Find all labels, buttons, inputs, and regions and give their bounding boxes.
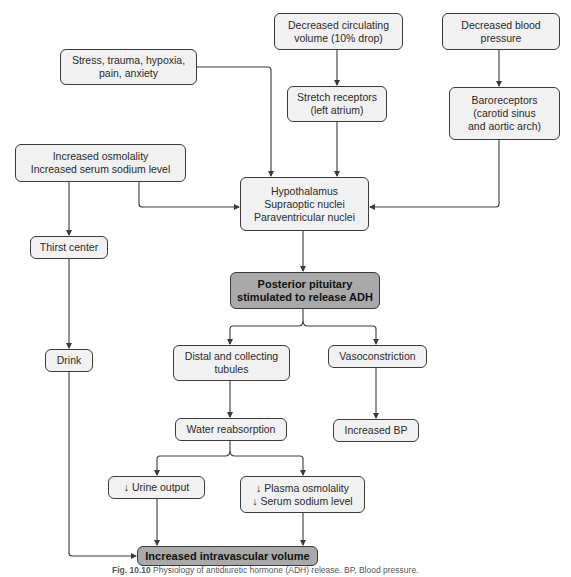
node-water-reabsorption: Water reabsorption (175, 418, 287, 441)
node-urine-output: ↓ Urine output (108, 476, 205, 499)
node-plasma-osmolality: ↓ Plasma osmolality ↓ Serum sodium level (240, 476, 365, 513)
node-increased-osmolality: Increased osmolality Increased serum sod… (15, 144, 186, 182)
node-increased-bp: Increased BP (333, 419, 419, 442)
caption-text: Physiology of antidiuretic hormone (ADH)… (151, 565, 419, 575)
node-decreased-blood-pressure: Decreased blood pressure (442, 13, 560, 50)
node-baroreceptors: Baroreceptors (carotid sinus and aortic … (449, 87, 560, 140)
node-vasoconstriction: Vasoconstriction (328, 345, 427, 368)
figure-caption: Fig. 10.10 Physiology of antidiuretic ho… (112, 565, 418, 575)
node-distal-collecting-tubules: Distal and collecting tubules (173, 345, 290, 381)
caption-label: Fig. 10.10 (112, 565, 151, 575)
node-hypothalamus: Hypothalamus Supraoptic nuclei Paraventr… (240, 177, 369, 231)
node-increased-intravascular-volume: Increased intravascular volume (137, 546, 318, 566)
node-decreased-circulating-volume: Decreased circulating volume (10% drop) (274, 13, 403, 50)
node-thirst-center: Thirst center (30, 236, 108, 259)
node-posterior-pituitary: Posterior pituitary stimulated to releas… (230, 272, 380, 309)
node-stretch-receptors: Stretch receptors (left atrium) (287, 86, 387, 122)
node-drink: Drink (45, 349, 93, 372)
node-stress: Stress, trauma, hypoxia, pain, anxiety (60, 49, 197, 85)
